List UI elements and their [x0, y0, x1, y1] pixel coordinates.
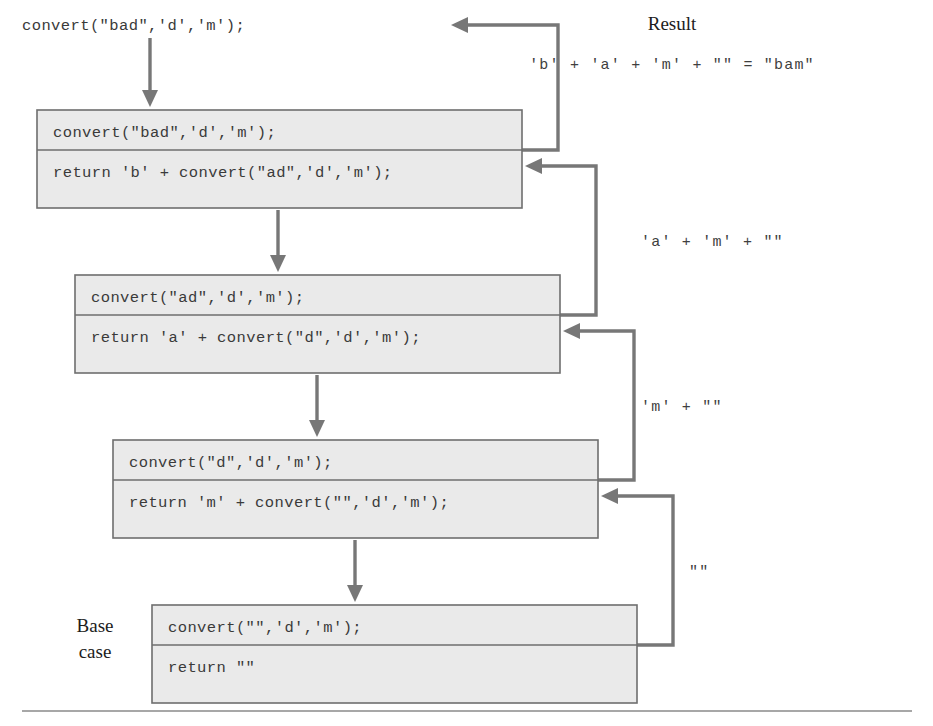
call-arrow-1-2 [270, 210, 286, 272]
base-case-label-line1: Base [77, 615, 114, 636]
initial-call-text: convert("bad",'d','m'); [22, 17, 245, 35]
diagram-canvas: convert("bad",'d','m'); Result 'b' + 'a'… [0, 0, 933, 726]
return-label-3: "" [689, 564, 709, 581]
frame-2-return-text: return 'a' + convert("d",'d','m'); [91, 329, 421, 347]
frame-1: convert("bad",'d','m'); return 'b' + con… [37, 110, 522, 208]
return-label-1: 'a' + 'm' + "" [641, 234, 784, 251]
call-arrow-2-3 [309, 375, 325, 437]
base-case-label-line2: case [79, 641, 112, 662]
result-expression: 'b' + 'a' + 'm' + "" = "bam" [529, 57, 815, 74]
frame-3-return-text: return 'm' + convert("",'d','m'); [129, 494, 449, 512]
return-labels-group: 'a' + 'm' + "" 'm' + "" "" [641, 234, 784, 581]
recursion-trace-diagram: convert("bad",'d','m'); Result 'b' + 'a'… [0, 0, 933, 726]
frame-3: convert("d",'d','m'); return 'm' + conve… [113, 440, 598, 538]
return-label-2: 'm' + "" [641, 399, 723, 416]
frame-4-call-text: convert("",'d','m'); [168, 619, 362, 637]
frame-3-call-text: convert("d",'d','m'); [129, 454, 333, 472]
call-arrow-initial [142, 38, 158, 107]
frame-4-return-text: return "" [168, 659, 255, 677]
frame-2: convert("ad",'d','m'); return 'a' + conv… [75, 275, 560, 373]
call-arrow-3-4 [347, 540, 363, 602]
frame-1-call-text: convert("bad",'d','m'); [53, 124, 276, 142]
frame-4: convert("",'d','m'); return "" [152, 605, 637, 703]
result-heading: Result [648, 13, 697, 34]
frame-1-return-text: return 'b' + convert("ad",'d','m'); [53, 164, 393, 182]
frame-2-call-text: convert("ad",'d','m'); [91, 289, 304, 307]
